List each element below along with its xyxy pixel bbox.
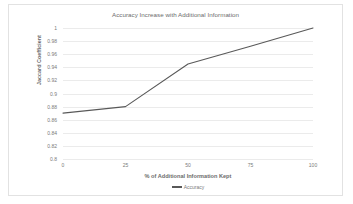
y-tick-label: 0.82 [47, 143, 57, 149]
y-tick-label: 0.96 [47, 51, 57, 57]
x-axis-title: % of Additional Information Kept [63, 173, 313, 179]
x-tick-label: 100 [309, 162, 317, 168]
line-series-accuracy [63, 28, 313, 159]
x-tick-label: 25 [123, 162, 129, 168]
chart-container: Accuracy Increase with Additional Inform… [8, 4, 343, 196]
y-axis-tick-labels: 0.80.820.840.860.880.90.920.940.960.981 [9, 28, 61, 159]
x-tick-label: 50 [185, 162, 191, 168]
y-tick-label: 0.9 [50, 91, 57, 97]
y-tick-label: 0.84 [47, 130, 57, 136]
x-axis-tick-labels: 0255075100 [63, 162, 313, 171]
y-tick-label: 0.92 [47, 77, 57, 83]
y-tick-label: 0.86 [47, 117, 57, 123]
legend-line-marker-icon [172, 186, 182, 187]
x-tick-label: 0 [62, 162, 65, 168]
legend-label-accuracy: Accuracy [184, 184, 205, 190]
gridline [63, 159, 313, 160]
y-tick-label: 0.88 [47, 104, 57, 110]
y-tick-label: 1 [54, 25, 57, 31]
y-tick-label: 0.94 [47, 64, 57, 70]
y-tick-label: 0.98 [47, 38, 57, 44]
plot-area [63, 28, 313, 159]
chart-legend: Accuracy [63, 184, 313, 190]
chart-title: Accuracy Increase with Additional Inform… [9, 11, 342, 18]
y-tick-label: 0.8 [50, 156, 57, 162]
x-tick-label: 75 [248, 162, 254, 168]
